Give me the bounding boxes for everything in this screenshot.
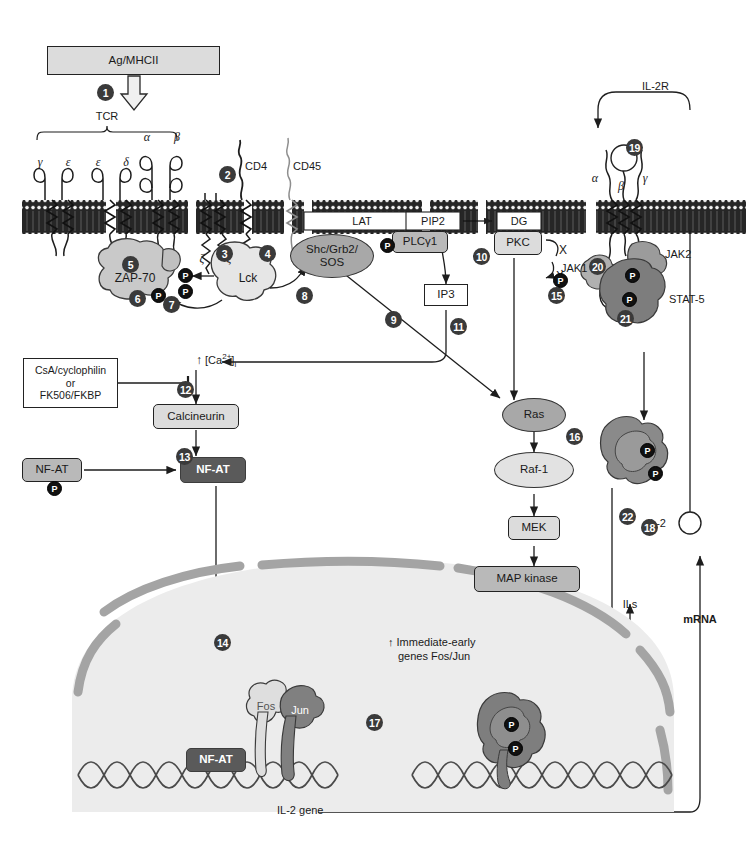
inhibitor-line1: CsA/cyclophilin (35, 364, 106, 377)
tcr-chain-alpha: α (144, 131, 150, 145)
ras-ellipse: Ras (502, 398, 566, 432)
mek-box: MEK (508, 516, 560, 540)
step-bullet-4: 4 (259, 245, 276, 262)
stat5-label: STAT-5 (669, 293, 705, 306)
zap70-label: ZAP-70 (115, 272, 156, 286)
calcium-label: ↑ [Ca2+]i (196, 352, 236, 369)
lat-label: LAT (352, 215, 371, 228)
phosphate-stat5-dimer-lower: P (648, 466, 663, 481)
step-bullet-2: 2 (219, 166, 236, 183)
calcineurin-box: Calcineurin (153, 404, 239, 429)
step-bullet-18: 18 (641, 519, 658, 536)
il2r-chain-beta: β (618, 180, 624, 194)
il2r-chain-alpha: α (592, 172, 598, 186)
nfat-nuclear-box: NF-AT (186, 748, 246, 772)
step-bullet-9: 9 (385, 311, 402, 328)
step-bullet-21: 21 (617, 310, 634, 327)
step-bullet-1: 1 (97, 84, 114, 101)
il2r-label: IL-2R (642, 80, 669, 93)
tcr-chain-epsilon-2: ε (96, 156, 101, 170)
ip3-box: IP3 (424, 284, 468, 306)
pkc-substrate-x: X (559, 244, 567, 258)
tcr-chain-delta: δ (123, 156, 129, 170)
cd45-label: CD45 (293, 160, 321, 173)
plcg1-box: PLCγ1 (392, 231, 448, 253)
zap70-sh2-lobe (162, 249, 180, 271)
shc-grb2-sos-line2: SOS (320, 256, 344, 269)
lck-label: Lck (239, 272, 258, 286)
step-bullet-3: 3 (216, 245, 233, 262)
jak1-label: JAK1 (561, 262, 587, 275)
phosphate-stat5-lower: P (622, 292, 637, 307)
ils-label: ILs (623, 598, 638, 611)
jun-leucine-zipper (281, 716, 296, 781)
jun-label: Jun (291, 704, 309, 717)
phosphate-zeta-ITAM-lower: P (178, 284, 193, 299)
fos-label: Fos (257, 700, 275, 713)
step-bullet-13: 13 (176, 448, 193, 465)
nfat-inactive-box: NF-AT (22, 458, 82, 482)
step-bullet-22: 22 (619, 508, 636, 525)
mrna-label: mRNA (683, 613, 717, 626)
inhibitor-line3: FK506/FKBP (40, 389, 101, 402)
il2-gene-label: IL-2 gene (277, 804, 323, 817)
step-bullet-16: 16 (566, 428, 583, 445)
step-bullet-14: 14 (214, 634, 231, 651)
tcr-label: TCR (96, 110, 119, 123)
shc-grb2-sos-line1: Shc/Grb2/ (306, 243, 358, 256)
phosphate-zeta-ITAM-upper: P (178, 268, 193, 283)
step-bullet-11: 11 (450, 318, 467, 335)
pip2-label: PIP2 (421, 215, 445, 228)
map-kinase-box: MAP kinase (474, 566, 580, 592)
step-bullet-10: 10 (473, 248, 490, 265)
phosphate-zap70: P (151, 288, 166, 303)
diagram-vector-layer (0, 0, 746, 867)
step-bullet-8: 8 (296, 287, 313, 304)
phosphate-nuclear-stat-lower: P (508, 741, 523, 756)
nucleus (72, 560, 674, 812)
antigen-engagement-arrow (121, 76, 147, 110)
step-bullet-5: 5 (122, 256, 139, 273)
ag-mhcii-box: Ag/MHCII (47, 46, 220, 75)
step-bullet-12: 12 (177, 381, 194, 398)
immediate-early-line1: ↑ Immediate-early (388, 636, 475, 649)
tcr-chain-beta: β (174, 131, 180, 145)
step-bullet-7: 7 (163, 296, 180, 313)
tcr-bracket (37, 126, 177, 140)
shc-grb2-sos-complex: Shc/Grb2/ SOS (290, 234, 374, 278)
jak2-label: JAK2 (665, 248, 691, 261)
dg-label: DG (511, 215, 528, 228)
figure-canvas: Ag/MHCII TCR γ ε ε δ α β ζ ζ CD4 CD45 LA… (0, 0, 746, 867)
immunosuppressant-box: CsA/cyclophilin or FK506/FKBP (23, 358, 118, 408)
step-bullet-6: 6 (129, 290, 146, 307)
phosphate-plcgamma1: P (380, 238, 395, 253)
immediate-early-line2: genes Fos/Jun (398, 650, 470, 663)
step-bullet-19: 19 (626, 139, 643, 156)
step-bullet-15: 15 (548, 287, 565, 304)
tcr-chain-zeta-1: ζ (200, 252, 205, 266)
il2r-chain-gamma: γ (643, 172, 648, 186)
raf1-ellipse: Raf-1 (494, 452, 574, 488)
phosphate-nuclear-stat-upper: P (504, 717, 519, 732)
phosphate-stat5-dimer-upper: P (640, 443, 655, 458)
cd4-label: CD4 (245, 160, 267, 173)
il2-secreted-ligand (679, 512, 701, 534)
phosphate-stat5-upper: P (625, 268, 640, 283)
tcr-chain-epsilon-1: ε (66, 156, 71, 170)
pkc-box: PKC (494, 231, 542, 255)
step-bullet-20: 20 (589, 258, 606, 275)
phosphate-nfat-inactive: P (47, 481, 62, 496)
tcr-chain-gamma: γ (38, 156, 43, 170)
step-bullet-17: 17 (366, 714, 383, 731)
phosphate-pkc-substrate: P (553, 273, 568, 288)
inhibitor-line2: or (66, 377, 75, 390)
